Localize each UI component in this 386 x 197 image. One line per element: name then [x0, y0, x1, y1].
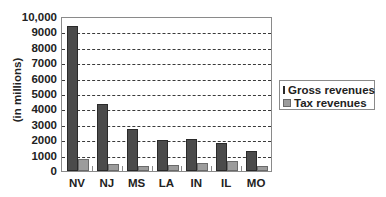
gridline	[62, 126, 271, 127]
gridline	[62, 95, 271, 96]
gross-revenue-bar-mo	[246, 151, 257, 171]
gridline	[62, 64, 271, 65]
x-tick-label: IN	[191, 177, 203, 189]
y-tick-label: 8000	[31, 42, 57, 54]
x-tick-label: LA	[159, 177, 174, 189]
gross-revenue-bar-nv	[67, 26, 78, 171]
x-tick-mark	[122, 166, 123, 171]
legend-item: Tax revenues	[283, 96, 371, 109]
x-tick-label: IL	[221, 177, 231, 189]
gross-revenue-bar-in	[186, 139, 197, 171]
bar-chart: (in millions) 01000200030004000500060007…	[0, 0, 386, 197]
y-tick-label: 10,000	[22, 11, 57, 23]
y-tick-label: 6000	[31, 73, 57, 85]
x-tick-mark	[152, 166, 153, 171]
legend-swatch-icon	[283, 99, 291, 107]
gridline	[62, 49, 271, 50]
gross-revenue-bar-ms	[127, 129, 138, 171]
tax-revenue-bar-nj	[108, 164, 119, 171]
legend: Gross revenuesTax revenues	[279, 80, 375, 110]
x-tick-label: NV	[69, 177, 85, 189]
legend-swatch-icon	[283, 86, 285, 94]
tax-revenue-bar-la	[168, 165, 179, 171]
y-tick-label: 4000	[31, 103, 57, 115]
x-tick-label: NJ	[99, 177, 114, 189]
gross-revenue-bar-il	[216, 143, 227, 171]
x-tick-mark	[241, 166, 242, 171]
legend-item: Gross revenues	[283, 83, 371, 96]
y-tick-label: 5000	[31, 88, 57, 100]
y-tick-label: 1000	[31, 150, 57, 162]
x-tick-mark	[181, 166, 182, 171]
y-tick-label: 2000	[31, 134, 57, 146]
gross-revenue-bar-nj	[97, 104, 108, 171]
tax-revenue-bar-il	[227, 161, 238, 171]
tax-revenue-bar-mo	[257, 166, 268, 171]
x-tick-mark	[92, 166, 93, 171]
tax-revenue-bar-nv	[78, 159, 89, 171]
y-tick-label: 7000	[31, 57, 57, 69]
legend-label: Tax revenues	[294, 97, 367, 109]
gridline	[62, 80, 271, 81]
gridline	[62, 110, 271, 111]
x-tick-label: MS	[128, 177, 145, 189]
plot-area	[61, 17, 272, 172]
tax-revenue-bar-ms	[138, 166, 149, 171]
y-axis-label: (in millions)	[11, 58, 23, 123]
y-tick-label: 0	[51, 165, 57, 177]
y-tick-label: 9000	[31, 26, 57, 38]
y-tick-label: 3000	[31, 119, 57, 131]
legend-label: Gross revenues	[288, 84, 375, 96]
x-tick-label: MO	[247, 177, 266, 189]
gross-revenue-bar-la	[157, 140, 168, 171]
tax-revenue-bar-in	[197, 163, 208, 171]
x-tick-mark	[211, 166, 212, 171]
gridline	[62, 33, 271, 34]
